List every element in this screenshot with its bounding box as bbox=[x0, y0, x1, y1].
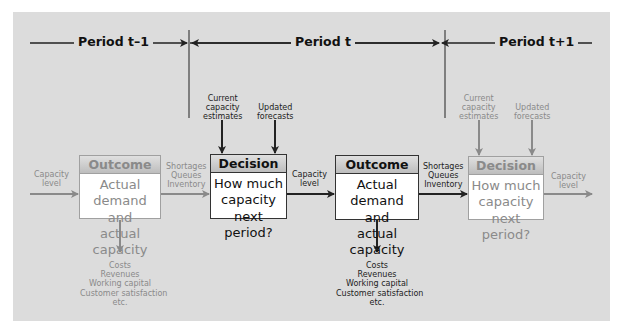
shortages-current-label: ShortagesQueuesInventory bbox=[423, 162, 464, 190]
updated-forecasts-label: Updatedforecasts bbox=[257, 103, 294, 121]
decision-box-current: Decision How muchcapacitynext period? bbox=[210, 154, 287, 219]
updated-forecasts-next-label: Updatedforecasts bbox=[514, 103, 551, 121]
box-title: Decision bbox=[469, 157, 543, 175]
capacity-level-out-label: Capacitylevel bbox=[551, 172, 586, 190]
results-current-label: CostsRevenuesWorking capitalCustomer sat… bbox=[336, 261, 418, 307]
capacity-level-mid-label: Capacitylevel bbox=[292, 170, 327, 188]
period-current-label: Period t bbox=[291, 35, 355, 49]
current-estimates-next-label: Currentcapacityestimates bbox=[459, 94, 498, 122]
period-next-label: Period t+1 bbox=[495, 35, 578, 49]
outcome-box-current: Outcome Actual demandandactual capacity bbox=[335, 155, 419, 220]
box-title: Decision bbox=[211, 155, 286, 173]
box-title: Outcome bbox=[336, 156, 418, 174]
outcome-box-prev: Outcome Actual demandandactual capacity bbox=[79, 155, 161, 219]
decision-box-next: Decision How muchcapacitynext period? bbox=[468, 156, 544, 220]
shortages-prev-label: ShortagesQueuesInventory bbox=[166, 162, 207, 190]
period-prev-label: Period t–1 bbox=[74, 35, 153, 49]
current-estimates-label: Currentcapacityestimates bbox=[203, 94, 242, 122]
box-title: Outcome bbox=[80, 156, 160, 174]
results-prev-label: CostsRevenuesWorking capitalCustomer sat… bbox=[80, 261, 160, 307]
capacity-level-in-label: Capacitylevel bbox=[34, 170, 69, 188]
